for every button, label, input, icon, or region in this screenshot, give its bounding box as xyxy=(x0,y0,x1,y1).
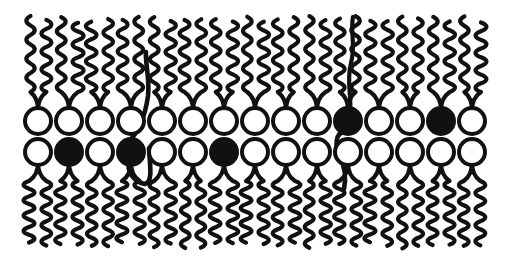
lipid-head-filled xyxy=(118,139,144,165)
lipid-head-open xyxy=(56,108,82,134)
lipid-head-open xyxy=(397,108,423,134)
lipid-head-open xyxy=(149,108,175,134)
lipid-head-open xyxy=(25,108,51,134)
lipid-head-open xyxy=(87,108,113,134)
lipid-head-open xyxy=(366,139,392,165)
lipid-head-open xyxy=(459,139,485,165)
lipid-head-filled xyxy=(428,108,454,134)
lipid-head-open xyxy=(87,139,113,165)
lipid-head-open xyxy=(242,139,268,165)
lipid-head-open xyxy=(273,139,299,165)
lipid-head-open xyxy=(25,139,51,165)
lipid-head-open xyxy=(180,108,206,134)
lipid-head-open xyxy=(242,108,268,134)
lipid-head-open xyxy=(211,108,237,134)
lipid-head-filled xyxy=(335,108,361,134)
lipid-head-open xyxy=(304,139,330,165)
lipid-head-open xyxy=(335,139,361,165)
lipid-head-open xyxy=(149,139,175,165)
lipid-head-open xyxy=(273,108,299,134)
lipid-bilayer-figure xyxy=(0,0,506,264)
bilayer-diagram-canvas xyxy=(0,0,506,264)
lipid-head-filled xyxy=(211,139,237,165)
lipid-head-open xyxy=(459,108,485,134)
lipid-head-open xyxy=(180,139,206,165)
lipid-head-open xyxy=(366,108,392,134)
upper-leaflet-heads xyxy=(25,108,485,134)
lipid-head-open xyxy=(118,108,144,134)
lower-leaflet-heads xyxy=(25,139,485,165)
lipid-head-filled xyxy=(56,139,82,165)
lipid-head-open xyxy=(428,139,454,165)
lipid-head-open xyxy=(304,108,330,134)
lipid-head-open xyxy=(397,139,423,165)
